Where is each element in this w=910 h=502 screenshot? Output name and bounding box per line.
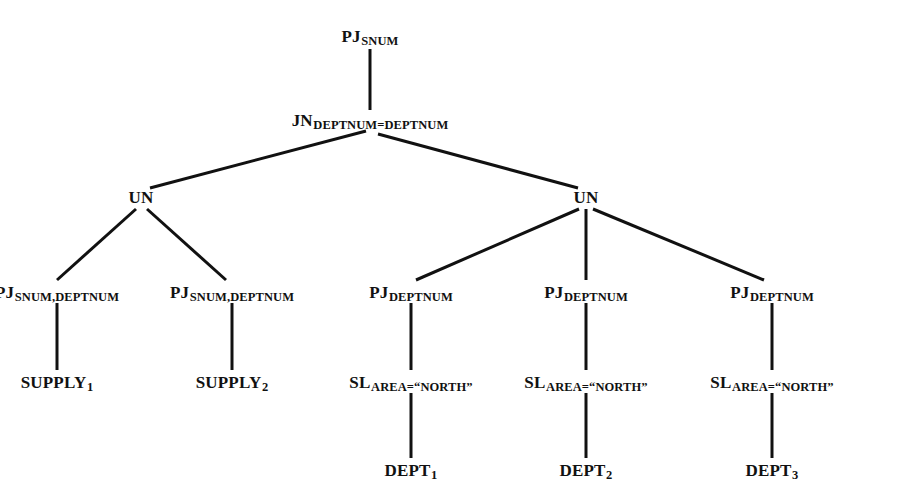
node-operator: PJ	[341, 27, 360, 46]
node-operator: PJ	[730, 283, 749, 302]
node-operator: JN	[292, 111, 313, 130]
node-subscript: DEPTNUM=DEPTNUM	[313, 118, 448, 132]
node-fragment-index: 1	[431, 468, 437, 482]
tree-node-sl_2: SLAREA=“NORTH”	[524, 374, 647, 391]
tree-node-pj_root: PJSNUM	[341, 28, 398, 45]
node-operator: SL	[710, 373, 731, 392]
node-operator: PJ	[0, 283, 14, 302]
node-operator: SUPPLY	[21, 373, 87, 392]
tree-edge-un_left-to-pj_l2	[147, 209, 226, 280]
node-operator: PJ	[170, 283, 189, 302]
node-subscript: SNUM,DEPTNUM	[15, 290, 119, 304]
tree-node-dept_1: DEPT1	[384, 462, 437, 479]
tree-edges	[0, 0, 910, 502]
tree-edge-un_right-to-pj_r3	[593, 209, 764, 280]
node-subscript: SNUM	[361, 34, 398, 48]
tree-node-dept_2: DEPT2	[559, 462, 612, 479]
tree-node-un_left: UN	[129, 189, 154, 206]
tree-node-un_right: UN	[574, 189, 599, 206]
node-operator: SL	[524, 373, 545, 392]
tree-edge-jn-to-un_left	[150, 131, 366, 188]
tree-node-pj_r2: PJDEPTNUM	[544, 284, 628, 301]
node-subscript: AREA=“NORTH”	[732, 380, 834, 394]
tree-node-sl_3: SLAREA=“NORTH”	[710, 374, 833, 391]
node-operator: SL	[349, 373, 370, 392]
node-fragment-index: 2	[606, 468, 612, 482]
tree-edge-jn-to-un_right	[378, 134, 578, 188]
node-operator: DEPT	[745, 461, 791, 480]
node-subscript: DEPTNUM	[564, 290, 628, 304]
node-subscript: DEPTNUM	[750, 290, 814, 304]
tree-node-jn: JNDEPTNUM=DEPTNUM	[292, 112, 449, 129]
node-subscript: AREA=“NORTH”	[546, 380, 648, 394]
node-fragment-index: 3	[792, 468, 798, 482]
node-fragment-index: 2	[262, 380, 268, 394]
node-operator: PJ	[544, 283, 563, 302]
tree-node-dept_3: DEPT3	[745, 462, 798, 479]
node-operator: DEPT	[384, 461, 430, 480]
tree-node-sl_1: SLAREA=“NORTH”	[349, 374, 472, 391]
tree-node-pj_l2: PJSNUM,DEPTNUM	[170, 284, 294, 301]
tree-node-pj_l1: PJSNUM,DEPTNUM	[0, 284, 119, 301]
query-tree-diagram: PJSNUMJNDEPTNUM=DEPTNUMUNUNPJSNUM,DEPTNU…	[0, 0, 910, 502]
node-operator: PJ	[369, 283, 388, 302]
node-fragment-index: 1	[87, 380, 93, 394]
node-operator: SUPPLY	[196, 373, 262, 392]
node-operator: DEPT	[559, 461, 605, 480]
node-subscript: AREA=“NORTH”	[371, 380, 473, 394]
tree-node-supply_1: SUPPLY1	[21, 374, 94, 391]
node-operator: UN	[129, 188, 154, 207]
tree-node-pj_r3: PJDEPTNUM	[730, 284, 814, 301]
node-subscript: SNUM,DEPTNUM	[190, 290, 294, 304]
node-operator: UN	[574, 188, 599, 207]
tree-edge-un_right-to-pj_r1	[416, 209, 579, 280]
node-subscript: DEPTNUM	[389, 290, 453, 304]
tree-node-supply_2: SUPPLY2	[196, 374, 269, 391]
tree-edge-un_left-to-pj_l1	[57, 209, 136, 280]
tree-node-pj_r1: PJDEPTNUM	[369, 284, 453, 301]
